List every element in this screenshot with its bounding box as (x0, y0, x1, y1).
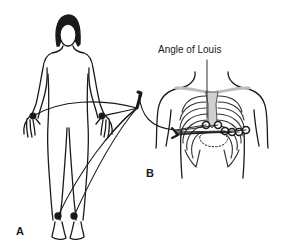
angle-of-louis-label: Angle of Louis (158, 44, 221, 55)
ecg-electrode-diagram: Angle of Louis B A (0, 0, 285, 250)
panel-label-b: B (146, 167, 154, 179)
chest-figure (156, 60, 268, 178)
body-figure (24, 15, 112, 239)
lead-cables (33, 92, 175, 216)
diagram-svg (0, 0, 285, 250)
panel-label-a: A (16, 225, 24, 237)
